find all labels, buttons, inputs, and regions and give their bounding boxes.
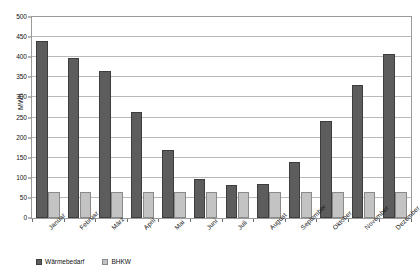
- bar-bhkw: [143, 192, 155, 218]
- bar-bhkw: [174, 192, 186, 218]
- bar-group: [64, 17, 96, 218]
- bar-group: [158, 17, 190, 218]
- x-axis-tick-labels: JanuarFebruarMärzAprilMaiJuniJuliAugustS…: [32, 219, 411, 275]
- bar-group: [222, 17, 254, 218]
- y-axis-tick-label: 250: [16, 114, 27, 121]
- x-axis-tick-mark: [95, 219, 96, 222]
- y-axis-tick-label: 400: [16, 54, 27, 61]
- x-axis-tick-mark: [316, 219, 317, 222]
- x-axis-tick-mark: [127, 219, 128, 222]
- x-axis-tick-mark: [190, 219, 191, 222]
- bar-warmebedarf: [194, 179, 206, 218]
- x-axis-tick-label: Mai: [173, 218, 186, 231]
- bar-warmebedarf: [257, 184, 269, 218]
- y-axis-tick-label: 100: [16, 175, 27, 182]
- bar-group: [285, 17, 317, 218]
- y-axis-tick-label: 200: [16, 134, 27, 141]
- bar-bhkw: [238, 192, 250, 218]
- y-axis-tick-label: 450: [16, 34, 27, 41]
- x-axis-tick-mark: [348, 219, 349, 222]
- legend-label: Wärmebedarf: [45, 258, 84, 265]
- bar-warmebedarf: [36, 41, 48, 218]
- bar-group: [379, 17, 411, 218]
- bar-warmebedarf: [131, 112, 143, 218]
- x-axis-tick-mark: [32, 219, 33, 222]
- x-axis-tick-label: April: [142, 216, 157, 231]
- bar-warmebedarf: [68, 58, 80, 218]
- bar-group: [127, 17, 159, 218]
- legend-swatch-icon: [36, 259, 42, 265]
- x-axis-tick-mark: [158, 219, 159, 222]
- legend-item-warmebedarf: Wärmebedarf: [36, 258, 84, 265]
- bar-group: [190, 17, 222, 218]
- bar-group: [316, 17, 348, 218]
- x-axis-tick-mark: [64, 219, 65, 222]
- bar-warmebedarf: [162, 150, 174, 218]
- bar-series-container: [32, 17, 411, 218]
- bar-bhkw: [111, 192, 123, 218]
- x-axis-tick-mark: [379, 219, 380, 222]
- bar-bhkw: [206, 192, 218, 218]
- bar-group: [348, 17, 380, 218]
- x-axis-tick-mark: [411, 219, 412, 222]
- x-axis-tick-mark: [285, 219, 286, 222]
- bar-chart: MWh 050100150200250300350400450500 Janua…: [0, 0, 420, 276]
- x-axis-tick-mark: [253, 219, 254, 222]
- legend-item-bhkw: BHKW: [102, 258, 131, 265]
- bar-warmebedarf: [289, 162, 301, 218]
- chart-legend: Wärmebedarf BHKW: [36, 258, 131, 265]
- x-axis-tick-mark: [222, 219, 223, 222]
- y-axis-tick-label: 0: [23, 215, 27, 222]
- x-axis-tick-label: Juli: [236, 219, 248, 231]
- y-axis-tick-label: 300: [16, 94, 27, 101]
- bar-group: [95, 17, 127, 218]
- y-axis-tick-label: 350: [16, 74, 27, 81]
- bar-warmebedarf: [352, 85, 364, 218]
- y-axis-tick-label: 150: [16, 154, 27, 161]
- y-axis-tick-label: 500: [16, 14, 27, 21]
- legend-swatch-icon: [102, 259, 108, 265]
- y-axis-tick-labels: 050100150200250300350400450500: [0, 0, 31, 236]
- x-axis-tick-label: Juni: [205, 217, 219, 231]
- legend-label: BHKW: [111, 258, 131, 265]
- y-axis-tick-label: 50: [20, 195, 27, 202]
- bar-group: [253, 17, 285, 218]
- bar-group: [32, 17, 64, 218]
- bar-warmebedarf: [226, 185, 238, 218]
- bar-warmebedarf: [99, 71, 111, 218]
- bar-warmebedarf: [383, 54, 395, 218]
